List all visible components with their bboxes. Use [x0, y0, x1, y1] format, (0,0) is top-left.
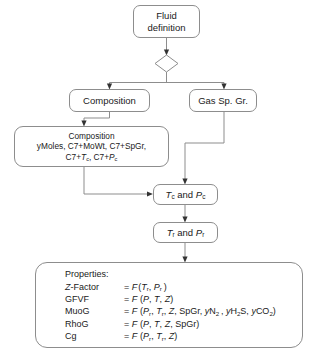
node-tr-pr-label: Tr and Pr — [154, 227, 217, 239]
composition-detail-line2: yMoles, C7+MoWt, C7+SpGr, — [37, 141, 146, 151]
table-row: GFVF = F (P, T, Z) — [65, 294, 276, 306]
node-tc-pc-label: Tc and Pc — [154, 189, 217, 201]
node-fluid-definition: Fluiddefinition — [133, 5, 200, 38]
property-name-rhog: RhoG — [65, 319, 120, 331]
property-name-z-factor: Z-Factor — [65, 282, 120, 294]
node-composition-detail-label: Composition yMoles, C7+MoWt, C7+SpGr, C7… — [15, 131, 168, 162]
node-tr-pr: Tr and Pr — [153, 222, 218, 243]
decision-diamond — [155, 55, 178, 72]
property-name-muog: MuoG — [65, 306, 120, 318]
property-formula-cg: = F (Pr, Tr, Z) — [120, 331, 276, 343]
node-tc-pc: Tc and Pc — [153, 184, 218, 205]
properties-heading: Properties: — [36, 269, 302, 281]
node-gas-sp-gr-label: Gas Sp. Gr. — [190, 95, 256, 107]
edge-detail-to-tcpc — [84, 167, 150, 194]
node-composition-detail: Composition yMoles, C7+MoWt, C7+SpGr, C7… — [14, 126, 169, 167]
property-name-cg: Cg — [65, 331, 120, 343]
node-properties: Properties: Z-Factor = F(Tr, Pr ) GFVF =… — [35, 262, 303, 348]
property-name-gfvf: GFVF — [65, 294, 120, 306]
property-formula-gfvf: = F (P, T, Z) — [120, 294, 276, 306]
property-formula-z-factor: = F(Tr, Pr ) — [120, 282, 276, 294]
property-formula-rhog: = F (P, T, Z, SpGr) — [120, 319, 276, 331]
edge-composition-to-detail — [84, 112, 110, 124]
node-composition-label: Composition — [70, 95, 149, 107]
table-row: MuoG = F (Pr, Tr, Z, SpGr, yN2 , yH2S, y… — [65, 306, 276, 318]
edge-gas-to-tcpc — [185, 112, 224, 182]
table-row: Cg = F (Pr, Tr, Z) — [65, 331, 276, 343]
node-fluid-definition-label: Fluiddefinition — [134, 10, 199, 34]
table-row: Z-Factor = F(Tr, Pr ) — [65, 282, 276, 294]
composition-detail-line3: C7+Tc, C7+Pc — [66, 152, 118, 162]
properties-table: Z-Factor = F(Tr, Pr ) GFVF = F (P, T, Z)… — [65, 282, 276, 344]
node-gas-sp-gr: Gas Sp. Gr. — [189, 89, 257, 112]
table-row: RhoG = F (P, T, Z, SpGr) — [65, 319, 276, 331]
property-formula-muog: = F (Pr, Tr, Z, SpGr, yN2 , yH2S, yCO2) — [120, 306, 276, 318]
node-composition: Composition — [69, 89, 150, 112]
composition-detail-line1: Composition — [68, 131, 114, 141]
